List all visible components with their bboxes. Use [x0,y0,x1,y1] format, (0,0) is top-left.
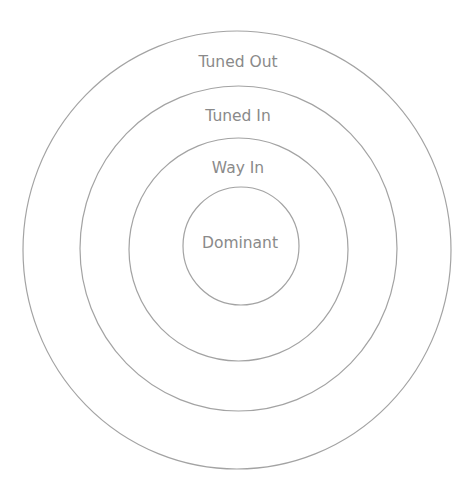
label-tuned-in: Tuned In [205,107,270,125]
label-tuned-out: Tuned Out [198,53,277,71]
label-way-in: Way In [212,159,264,177]
label-dominant: Dominant [202,234,278,252]
